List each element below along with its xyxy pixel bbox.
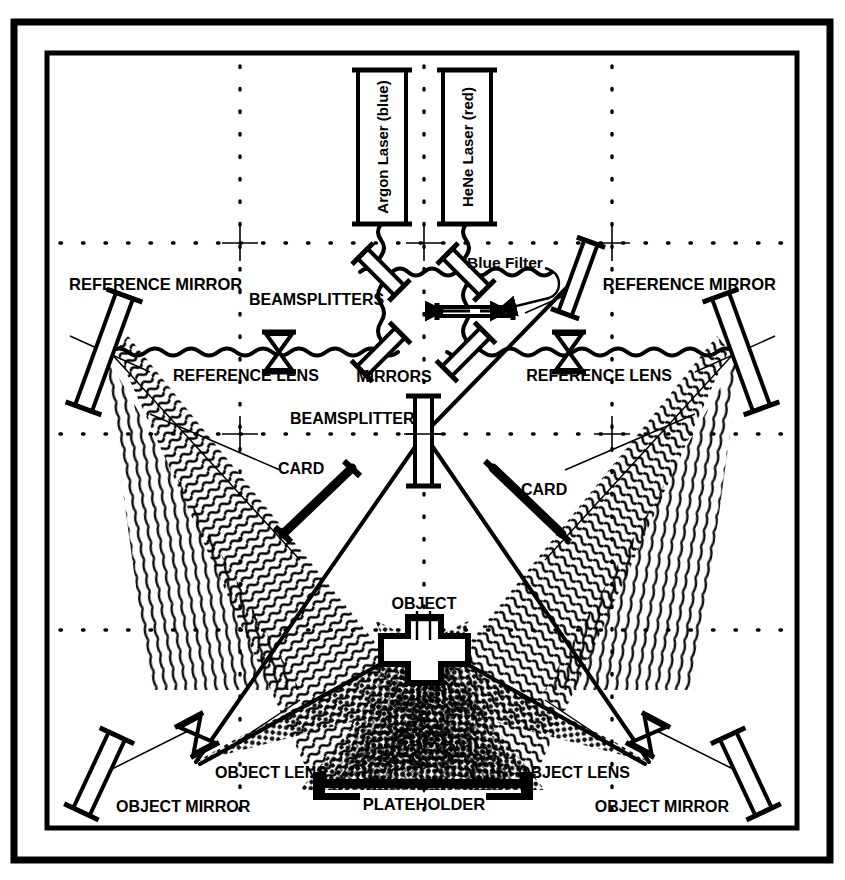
label-object-mirror-left: OBJECT MIRROR: [116, 798, 251, 815]
argon-laser-box: Argon Laser (blue): [352, 70, 412, 224]
label-reference-lens-left: REFERENCE LENS: [173, 367, 319, 384]
label-blue-filter: Blue Filter: [467, 254, 543, 271]
label-object: OBJECT: [392, 595, 457, 612]
label-object-lens-right: OBJECT LENS: [518, 764, 630, 781]
hene-laser-box: HeNe Laser (red): [437, 70, 497, 224]
label-object-lens-left: OBJECT LENS: [215, 764, 327, 781]
label-reference-mirror-left: REFERENCE MIRROR: [69, 275, 242, 293]
label-reference-lens-right: REFERENCE LENS: [526, 367, 672, 384]
label-object-mirror-right: OBJECT MIRROR: [595, 798, 730, 815]
label-reference-mirror-right: REFERENCE MIRROR: [603, 275, 776, 293]
label-card-left: CARD: [278, 460, 324, 477]
label-mirrors: MIRRORS: [356, 368, 432, 385]
label-plateholder: PLATEHOLDER: [363, 795, 486, 813]
label-card-right: CARD: [521, 481, 567, 498]
blue-filter-element[interactable]: [437, 303, 513, 320]
card-right[interactable]: [485, 461, 570, 542]
argon-laser-label: Argon Laser (blue): [374, 80, 391, 213]
label-beamsplitters: BEAMSPLITTERS: [249, 291, 384, 308]
hene-laser-label: HeNe Laser (red): [459, 87, 476, 207]
holography-diagram: Argon Laser (blue) HeNe Laser (red): [0, 0, 845, 880]
diagram-canvas: Argon Laser (blue) HeNe Laser (red): [0, 0, 845, 880]
label-beamsplitter: BEAMSPLITTER: [290, 410, 415, 427]
